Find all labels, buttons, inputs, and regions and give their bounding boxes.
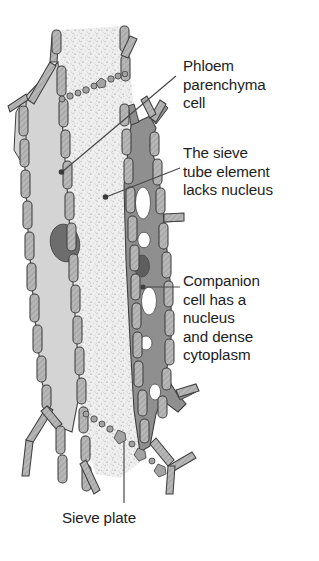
companion-vacuole bbox=[142, 287, 157, 315]
label-phloem-parenchyma-cell: Phloem parenchyma cell bbox=[183, 57, 315, 113]
label-sieve-plate: Sieve plate bbox=[62, 509, 212, 528]
label-sieve-tube-element: The sieve tube element lacks nucleus bbox=[183, 144, 319, 200]
leader-dot-phloem-parenchyma bbox=[59, 169, 65, 175]
label-companion-cell: Companion cell has a nucleus and dense c… bbox=[183, 272, 315, 365]
companion-vacuole bbox=[138, 232, 150, 248]
companion-vacuole bbox=[136, 187, 151, 219]
companion-nucleolus bbox=[140, 284, 145, 289]
phloem-diagram-figure: Phloem parenchyma cell The sieve tube el… bbox=[0, 0, 319, 561]
leader-dot-sieve-tube bbox=[103, 194, 109, 200]
